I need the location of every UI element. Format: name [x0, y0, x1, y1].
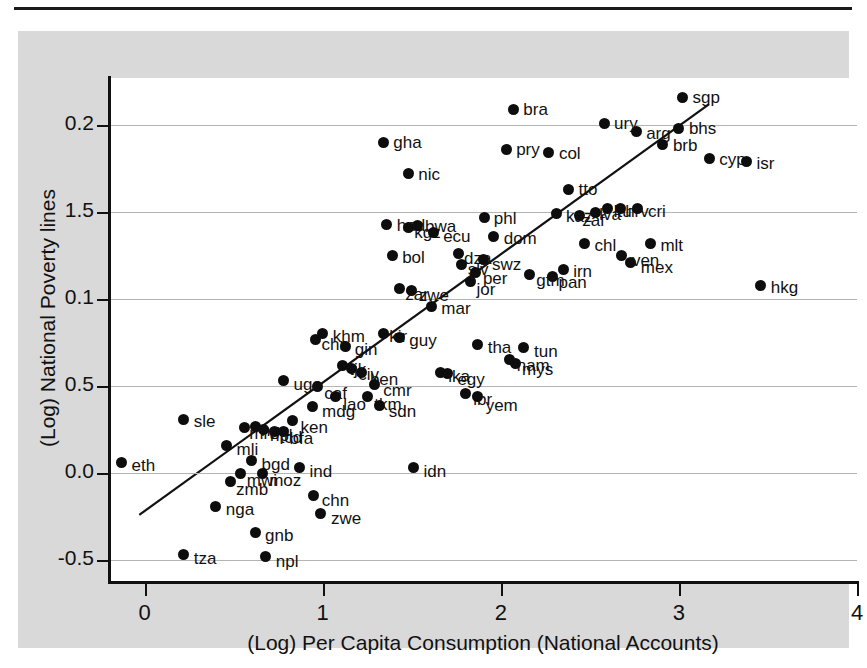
scatter-point[interactable] [312, 381, 323, 392]
scatter-point-label: cri [648, 203, 666, 220]
y-tick-mark [97, 386, 108, 388]
scatter-point-label: chn [322, 492, 349, 509]
y-axis-title: (Log) National Poverty lines [36, 78, 60, 558]
scatter-point[interactable] [704, 153, 715, 164]
y-tick-mark [97, 560, 108, 562]
scatter-point[interactable] [579, 238, 590, 249]
x-tick-mark [145, 584, 147, 596]
scatter-point[interactable] [510, 358, 521, 369]
scatter-point[interactable] [369, 379, 380, 390]
y-tick-label-wrap: 0.0 [18, 459, 94, 483]
scatter-point-label: sdn [389, 403, 416, 420]
x-axis-title: (Log) Per Capita Consumption (National A… [109, 631, 857, 655]
scatter-point-label: phl [494, 210, 517, 227]
scatter-point[interactable] [472, 339, 483, 350]
scatter-point[interactable] [501, 144, 512, 155]
scatter-point[interactable] [315, 508, 326, 519]
scatter-point[interactable] [378, 137, 389, 148]
y-tick-mark [97, 212, 108, 214]
y-tick-label-wrap: 0.1 [18, 285, 94, 309]
scatter-point[interactable] [278, 426, 289, 437]
scatter-point[interactable] [403, 168, 414, 179]
scatter-point-label: yem [486, 397, 518, 414]
gridline-horizontal [109, 560, 857, 561]
scatter-point-label: pry [516, 141, 540, 158]
scatter-point[interactable] [340, 341, 351, 352]
scatter-point-label: guy [409, 332, 436, 349]
scatter-point-label: ind [310, 463, 333, 480]
scatter-point-label: bra [523, 101, 548, 118]
scatter-point-label: gin [355, 341, 378, 358]
scatter-point[interactable] [257, 468, 268, 479]
scatter-point[interactable] [381, 219, 392, 230]
y-tick-label: 0.5 [18, 372, 94, 396]
scatter-point[interactable] [374, 400, 385, 411]
scatter-point[interactable] [460, 388, 471, 399]
scatter-point[interactable] [755, 280, 766, 291]
scatter-point[interactable] [307, 401, 318, 412]
y-axis-line [108, 76, 111, 583]
scatter-point[interactable] [178, 414, 189, 425]
scatter-point-label: kaz [566, 208, 592, 225]
scatter-point[interactable] [508, 104, 519, 115]
scatter-point-label: bol [402, 249, 425, 266]
scatter-point[interactable] [250, 527, 261, 538]
x-tick-label: 2 [471, 600, 531, 626]
scatter-point[interactable] [330, 391, 341, 402]
scatter-point-label: gha [393, 134, 421, 151]
scatter-point[interactable] [524, 269, 535, 280]
scatter-point-label: hrv [625, 203, 649, 220]
scatter-point[interactable] [479, 212, 490, 223]
scatter-point[interactable] [645, 238, 656, 249]
scatter-point-label: moz [269, 472, 301, 489]
scatter-point[interactable] [435, 367, 446, 378]
scatter-point[interactable] [453, 248, 464, 259]
y-tick-label: 0.1 [18, 285, 94, 309]
scatter-point[interactable] [362, 391, 373, 402]
scatter-point[interactable] [346, 363, 357, 374]
scatter-point-label: chl [595, 237, 617, 254]
scatter-point-label: sgp [692, 89, 719, 106]
x-tick-mark [679, 584, 681, 596]
top-divider-rule [14, 7, 852, 10]
scatter-point[interactable] [488, 231, 499, 242]
scatter-point[interactable] [310, 334, 321, 345]
x-tick-label: 1 [293, 600, 353, 626]
scatter-point-label: isr [757, 155, 775, 172]
scatter-point[interactable] [563, 184, 574, 195]
scatter-point-label: dom [504, 230, 537, 247]
scatter-point[interactable] [428, 227, 439, 238]
x-tick-label: 3 [649, 600, 709, 626]
scatter-point[interactable] [356, 367, 367, 378]
scatter-point[interactable] [406, 285, 417, 296]
scatter-point[interactable] [210, 501, 221, 512]
scatter-point-label: gnb [265, 527, 293, 544]
y-tick-label-wrap: 1.5 [18, 198, 94, 222]
scatter-point[interactable] [456, 259, 467, 270]
scatter-point-label: eth [131, 457, 155, 474]
scatter-point-label: nic [418, 166, 440, 183]
scatter-point[interactable] [677, 92, 688, 103]
scatter-point[interactable] [412, 220, 423, 231]
y-tick-mark [97, 473, 108, 475]
scatter-point-label: mar [441, 300, 470, 317]
scatter-point[interactable] [387, 250, 398, 261]
scatter-point-label: sle [194, 413, 216, 430]
scatter-point-label: gtm [536, 272, 564, 289]
scatter-point-label: zmb [236, 481, 268, 498]
scatter-point[interactable] [599, 118, 610, 129]
y-tick-label-wrap: 0.5 [18, 372, 94, 396]
scatter-point-label: ecu [443, 228, 470, 245]
gridline-horizontal [109, 125, 857, 126]
scatter-point[interactable] [551, 208, 562, 219]
scatter-point[interactable] [235, 468, 246, 479]
scatter-point[interactable] [394, 332, 405, 343]
scatter-point-label: mex [641, 259, 673, 276]
x-tick-label: 0 [115, 600, 175, 626]
y-tick-label: -0.5 [18, 546, 94, 570]
scatter-point[interactable] [426, 301, 437, 312]
scatter-point[interactable] [657, 139, 668, 150]
scatter-point[interactable] [394, 283, 405, 294]
scatter-point[interactable] [221, 440, 232, 451]
scatter-point[interactable] [225, 476, 236, 487]
